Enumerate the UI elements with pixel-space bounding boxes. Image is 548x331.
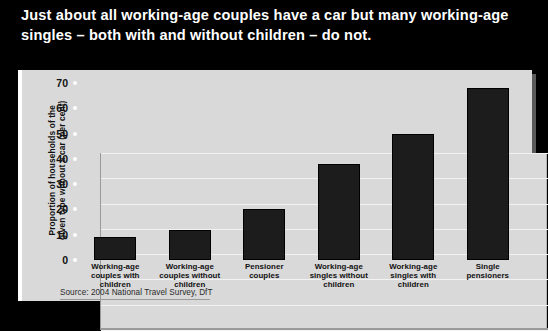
x-axis-category-label-line: children	[398, 280, 429, 289]
x-axis-category-label-line: couples without	[159, 271, 220, 280]
bar	[392, 134, 434, 260]
x-axis-category-label: Working-agecouples withoutchildren	[152, 262, 228, 290]
x-axis-category-label-line: couples with	[91, 271, 139, 280]
bar	[243, 209, 285, 260]
y-tick-mark	[73, 157, 77, 161]
y-tick-mark	[73, 106, 77, 110]
x-axis-category-label-line: couples	[249, 271, 279, 280]
y-axis-tick-label: 0	[40, 255, 68, 265]
x-axis-category-label-line: Working-age	[91, 262, 139, 271]
bar	[318, 164, 360, 260]
y-axis-title-line1: Proportion of households of the	[47, 105, 57, 236]
gridline	[101, 305, 548, 306]
title-banner: Just about all working-age couples have …	[0, 0, 545, 70]
y-axis-title-line2: given type without a car (per cent)	[57, 101, 67, 240]
x-axis-category-label: Working-agecouples withchildren	[77, 262, 153, 290]
x-axis-category-label-line: children	[174, 280, 205, 289]
x-axis-category-label: Singlepensioners	[450, 262, 526, 280]
x-axis-category-label: Pensionercouples	[226, 262, 302, 280]
y-tick-mark	[73, 132, 77, 136]
y-axis-title: Proportion of households of the given ty…	[47, 90, 67, 250]
x-axis-category-label-line: children	[323, 280, 354, 289]
x-axis-category-label-line: Working-age	[389, 262, 437, 271]
y-axis-tick-label: 70	[40, 78, 68, 88]
source-rule	[60, 299, 210, 300]
y-tick-mark	[73, 233, 77, 237]
y-axis-tick-label: 20	[40, 204, 68, 214]
bar	[94, 237, 136, 260]
chart-title: Just about all working-age couples have …	[21, 6, 521, 45]
x-axis-category-label: Working-agesingles withoutchildren	[301, 262, 377, 290]
bar	[467, 88, 509, 260]
y-tick-mark	[73, 258, 77, 262]
x-axis-category-label: Working-agesingles withchildren	[375, 262, 451, 290]
y-axis-tick-label: 60	[40, 103, 68, 113]
x-axis-category-label-line: singles with	[390, 271, 436, 280]
y-tick-mark	[73, 182, 77, 186]
y-axis-tick-label: 40	[40, 154, 68, 164]
x-axis-category-label-line: Working-age	[166, 262, 214, 271]
y-axis-tick-label: 30	[40, 179, 68, 189]
x-axis-category-label-line: Pensioner	[245, 262, 284, 271]
y-axis-tick-label: 50	[40, 129, 68, 139]
y-tick-mark	[73, 81, 77, 85]
x-axis-category-label-line: children	[100, 280, 131, 289]
x-axis-category-label-line: pensioners	[466, 271, 509, 280]
x-axis-category-label-line: Single	[476, 262, 500, 271]
bar	[169, 230, 211, 260]
y-axis-tick-label: 10	[40, 230, 68, 240]
x-axis-category-label-line: singles without	[310, 271, 368, 280]
x-axis-category-label-line: Working-age	[315, 262, 363, 271]
